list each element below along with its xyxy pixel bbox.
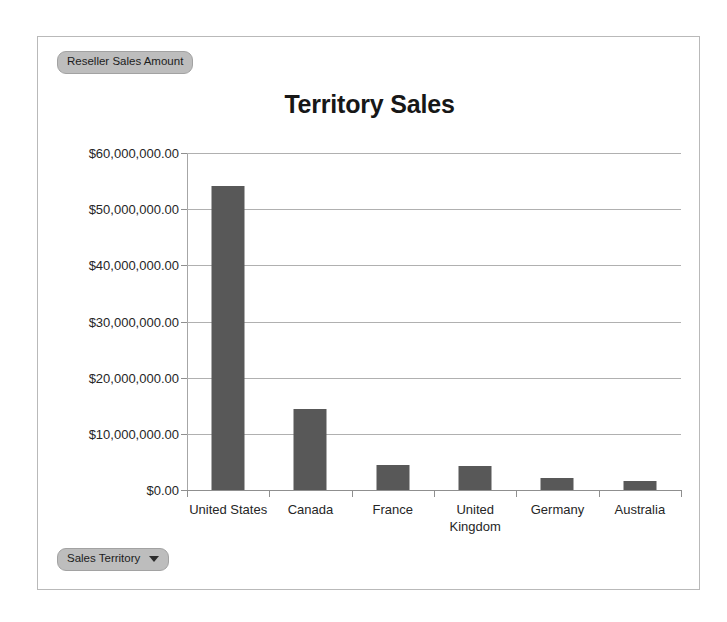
y-axis-tick-label: $30,000,000.00 (89, 315, 179, 330)
y-axis-tick-label: $10,000,000.00 (89, 427, 179, 442)
bar[interactable] (541, 478, 574, 490)
x-axis-tick (269, 491, 270, 497)
bar-slot (352, 153, 434, 490)
bar-slot (434, 153, 516, 490)
bar[interactable] (376, 465, 409, 490)
category-field-label: Sales Territory (67, 553, 140, 565)
x-axis-tick-label: Canada (269, 501, 351, 518)
x-axis-tick (681, 491, 682, 497)
bar[interactable] (294, 409, 327, 490)
x-axis-tick-label: France (352, 501, 434, 518)
chart-container: Reseller Sales Amount Territory Sales $6… (37, 36, 700, 590)
x-axis-tick (352, 491, 353, 497)
bar-slot (516, 153, 598, 490)
bar-slot (599, 153, 681, 490)
y-axis-tick-label: $50,000,000.00 (89, 202, 179, 217)
x-axis-tick (187, 491, 188, 497)
y-axis-tick-label: $20,000,000.00 (89, 371, 179, 386)
x-axis-tick-label: United Kingdom (434, 501, 516, 535)
x-axis-tick-label: United States (187, 501, 269, 518)
legend-field-label: Reseller Sales Amount (67, 56, 183, 68)
y-axis-tick-label: $60,000,000.00 (89, 146, 179, 161)
y-axis-labels: $60,000,000.00$50,000,000.00$40,000,000.… (38, 153, 179, 491)
bar[interactable] (623, 481, 656, 490)
x-axis-tick (599, 491, 600, 497)
x-axis-tick-label: Germany (516, 501, 598, 518)
x-axis-tick-label: Australia (599, 501, 681, 518)
x-axis-tick (434, 491, 435, 497)
bar-slot (269, 153, 351, 490)
legend-field-button[interactable]: Reseller Sales Amount (57, 51, 193, 74)
bar-slot (187, 153, 269, 490)
plot-area (187, 153, 681, 490)
y-axis-tick-label: $40,000,000.00 (89, 258, 179, 273)
bar[interactable] (212, 186, 245, 490)
chevron-down-icon (149, 556, 159, 562)
category-field-button[interactable]: Sales Territory (57, 548, 169, 571)
x-axis-tick (516, 491, 517, 497)
y-axis-tick-label: $0.00 (146, 483, 179, 498)
bar[interactable] (459, 466, 492, 490)
chart-title: Territory Sales (38, 90, 701, 119)
